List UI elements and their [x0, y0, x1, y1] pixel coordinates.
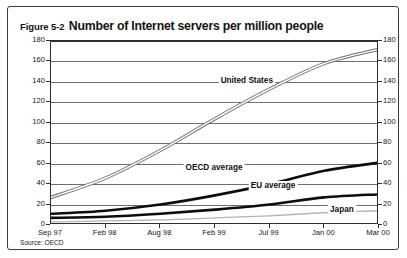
x-axis-tick-mark: [105, 224, 106, 228]
y-axis-tick-mark: [46, 81, 50, 82]
y-axis-tick-mark: [378, 40, 382, 41]
y-axis-tick-mark: [46, 40, 50, 41]
figure-number: Figure 5-2: [20, 21, 64, 32]
y-axis-tick-label-right: 20: [383, 200, 391, 208]
series-line-united-states-fill: [51, 49, 378, 197]
x-axis-tick-label: Aug 98: [147, 229, 171, 237]
page-title: Figure 5-2 Number of Internet servers pe…: [20, 16, 323, 34]
y-axis-tick-mark: [46, 60, 50, 61]
y-axis-tick-label-left: 180: [11, 36, 45, 44]
y-axis-tick-mark: [378, 60, 382, 61]
series-label-united-states: United States: [219, 76, 275, 85]
y-axis-tick-mark: [46, 224, 50, 225]
y-axis-tick-label-left: 20: [11, 200, 45, 208]
y-axis-tick-label-left: 40: [11, 179, 45, 187]
x-axis-tick-label: Mar 00: [366, 229, 390, 237]
x-axis-tick-label: Feb 98: [93, 229, 117, 237]
y-axis-tick-label-right: 100: [383, 118, 396, 126]
x-axis-tick-label: Sep 97: [38, 229, 62, 237]
source-note: Source: OECD: [20, 239, 64, 246]
y-axis-tick-label-right: 60: [383, 159, 391, 167]
y-axis-tick-label-right: 80: [383, 138, 391, 146]
series-layer: [51, 41, 378, 224]
y-axis-tick-label-right: 120: [383, 97, 396, 105]
x-axis-tick-label: Jul 99: [259, 229, 279, 237]
x-axis-tick-label: Feb 99: [202, 229, 226, 237]
figure-title-text: Number of Internet servers per million p…: [69, 19, 324, 33]
x-axis-tick-mark: [323, 224, 324, 228]
y-axis-tick-mark: [378, 204, 382, 205]
y-axis-tick-label-right: 0: [383, 220, 387, 228]
x-axis-tick-mark: [214, 224, 215, 228]
y-axis-tick-label-left: 140: [11, 77, 45, 85]
series-label-eu-average: EU average: [249, 181, 298, 190]
y-axis-tick-mark: [46, 204, 50, 205]
x-axis-tick-mark: [378, 224, 379, 228]
x-axis-tick-label: Jan 00: [312, 229, 335, 237]
y-axis-tick-mark: [378, 142, 382, 143]
plot-area: [50, 40, 378, 224]
y-axis-tick-mark: [46, 122, 50, 123]
y-axis-tick-mark: [378, 122, 382, 123]
x-axis-tick-mark: [159, 224, 160, 228]
y-axis-tick-label-right: 160: [383, 56, 396, 64]
y-axis-tick-label-left: 0: [11, 220, 45, 228]
y-axis-tick-mark: [46, 101, 50, 102]
y-axis-tick-mark: [46, 142, 50, 143]
y-axis-tick-label-right: 140: [383, 77, 396, 85]
y-axis-tick-label-right: 40: [383, 179, 391, 187]
y-axis-tick-label-left: 160: [11, 56, 45, 64]
y-axis-tick-label-left: 80: [11, 138, 45, 146]
y-axis-tick-mark: [46, 183, 50, 184]
series-label-oecd-average: OECD average: [184, 163, 245, 172]
plot-wrapper: [50, 40, 378, 224]
y-axis-tick-mark: [46, 163, 50, 164]
series-label-japan: Japan: [328, 205, 356, 214]
y-axis-tick-label-left: 100: [11, 118, 45, 126]
x-axis-tick-mark: [269, 224, 270, 228]
figure-frame: Figure 5-2 Number of Internet servers pe…: [7, 6, 399, 250]
y-axis-tick-mark: [378, 81, 382, 82]
y-axis-tick-label-right: 180: [383, 36, 396, 44]
y-axis-tick-label-left: 60: [11, 159, 45, 167]
series-line-united-states-outline: [51, 49, 378, 197]
y-axis-tick-mark: [378, 183, 382, 184]
y-axis-tick-mark: [378, 163, 382, 164]
y-axis-tick-mark: [378, 101, 382, 102]
y-axis-tick-label-left: 120: [11, 97, 45, 105]
